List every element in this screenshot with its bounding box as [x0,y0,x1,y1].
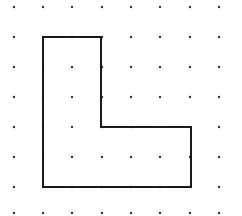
grid-dot [71,66,73,68]
grid-dot [13,156,15,158]
grid-dot [13,6,15,8]
grid-dot [71,156,73,158]
grid-dot [130,6,132,8]
grid-dot [189,66,191,68]
grid-dot [101,6,103,8]
l-shape-polygon [43,37,191,187]
grid-dot [13,66,15,68]
grid-dot [101,156,103,158]
grid-dot [159,212,161,214]
grid-dot [71,96,73,98]
grid-dot [218,156,220,158]
grid-dot [13,186,15,188]
grid-dot [13,96,15,98]
grid-dot [13,212,15,214]
grid-dot [218,186,220,188]
grid-dot [71,212,73,214]
grid-dot [71,6,73,8]
grid-dot [42,6,44,8]
grid-dot [101,212,103,214]
grid-dot [130,96,132,98]
grid-dot [159,36,161,38]
grid-dot [218,96,220,98]
grid-dot [218,126,220,128]
grid-dot [218,36,220,38]
grid-dot [218,66,220,68]
grid-dot [189,96,191,98]
grid-dot [130,156,132,158]
grid-dot [159,6,161,8]
grid-dot [13,36,15,38]
grid-dot [130,212,132,214]
grid-dot [189,36,191,38]
grid-dot [159,156,161,158]
grid-dot [189,212,191,214]
grid-dot [159,96,161,98]
grid-dot [13,126,15,128]
grid-dot [130,36,132,38]
grid-dot [130,66,132,68]
dot-grid-diagram [0,0,242,216]
grid-dot [71,126,73,128]
grid-dot [159,66,161,68]
grid-dot [218,6,220,8]
grid-dot [42,212,44,214]
grid-dot [189,6,191,8]
grid-dot [218,212,220,214]
